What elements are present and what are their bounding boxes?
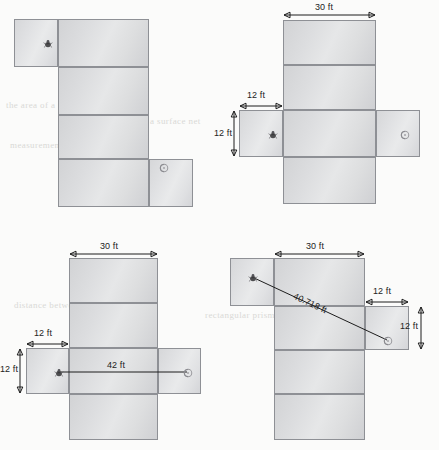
net-tile-column-1 (283, 20, 376, 65)
end-marker (183, 368, 192, 377)
width-label: 30 ft (98, 241, 120, 251)
end-marker (159, 163, 168, 172)
wing-width-dimension-arrow (239, 101, 283, 111)
measured-distance-label: 42 ft (107, 360, 125, 370)
start-marker (54, 368, 63, 377)
net-tile-column-2 (283, 65, 376, 110)
net-tile-column-1 (58, 19, 149, 67)
wing-height-label: 12 ft (214, 128, 232, 138)
figure-1-net-unmeasured (0, 0, 219, 225)
net-tile-column-2 (58, 67, 149, 115)
net-tile-column-4 (283, 157, 376, 204)
start-marker (248, 273, 257, 282)
end-marker (400, 130, 409, 139)
start-marker (268, 130, 277, 139)
figure-2-net-with-side-dimensions: 30 ft 12 ft 12 ft (220, 0, 439, 225)
wing-height-label: 12 ft (0, 364, 18, 374)
figure-3-net-with-horizontal-measurement: 30 ft 12 ft 12 ft 42 ft (0, 230, 219, 450)
net-tile-right-wing (149, 159, 193, 207)
wing-width-label: 12 ft (34, 328, 52, 338)
wing-width-label: 12 ft (247, 90, 265, 100)
net-tile-column-2 (69, 303, 158, 348)
net-tile-column-4 (69, 394, 158, 440)
net-tile-column-3 (283, 110, 376, 157)
end-marker (383, 336, 392, 345)
figure-4-net-with-diagonal-measurement: 30 ft 12 ft 12 ft 40.718 ft (220, 230, 439, 450)
width-label: 30 ft (313, 2, 335, 12)
start-marker (43, 39, 52, 48)
net-tile-column-4 (58, 159, 149, 207)
wing-width-dimension-arrow (26, 339, 69, 349)
net-tile-column-1 (69, 258, 158, 303)
net-tile-right-wing (376, 110, 420, 157)
net-tile-column-3 (58, 115, 149, 159)
measured-distance-line (220, 230, 439, 450)
